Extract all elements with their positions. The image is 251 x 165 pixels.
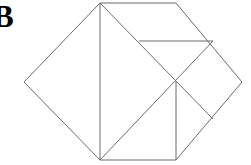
figure-container: B [0, 0, 251, 165]
diagonal-top-to-lower-right-line [100, 3, 213, 119]
outer-outline-polygon [24, 3, 242, 160]
diagonal-bottom-to-upper-right-line [100, 41, 213, 160]
tangram-figure [0, 0, 251, 165]
